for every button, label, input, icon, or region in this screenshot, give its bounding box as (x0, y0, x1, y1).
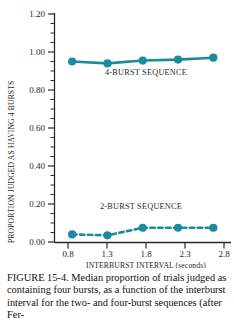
data-point-marker (174, 224, 182, 232)
y-axis-tick-labels: 1.20 1.00 0.80 0.60 0.40 0.20 0.00 (29, 9, 45, 247)
series-1 (68, 54, 217, 68)
data-point-marker (209, 54, 217, 62)
data-point-marker (139, 56, 147, 64)
y-tick-label: 0.60 (29, 123, 45, 133)
figure-plot-area: PROPORTION JUDGED AS HAVING 4 BURSTS (0, 0, 234, 268)
data-point-marker (68, 57, 76, 65)
x-tick-label: 0.8 (62, 249, 74, 259)
x-tick-label: 1.3 (101, 249, 113, 259)
x-tick-label: 2.8 (218, 249, 230, 259)
series-annotation-4-burst: 4-BURST SEQUENCE (105, 68, 187, 77)
y-tick-label: 0.00 (29, 237, 45, 247)
data-point-marker (139, 224, 147, 232)
data-point-marker (209, 224, 217, 232)
y-tick-label: 0.40 (29, 161, 45, 171)
y-tick-label: 1.20 (29, 9, 45, 19)
y-axis-major-ticks (48, 14, 55, 242)
series-layer (68, 54, 217, 240)
x-axis-tick-labels: 0.8 1.3 1.8 2.3 2.8 (62, 249, 230, 259)
caption-line: FIGURE 15-4. Median proportion of trials (7, 272, 184, 283)
y-tick-label: 0.20 (29, 199, 45, 209)
data-point-marker (68, 230, 76, 238)
figure-caption: FIGURE 15-4. Median proportion of trials… (7, 272, 229, 322)
y-axis-title: PROPORTION JUDGED AS HAVING 4 BURSTS (7, 81, 16, 243)
x-axis-ticks (68, 243, 224, 249)
x-tick-label: 1.8 (140, 249, 152, 259)
data-point-marker (103, 231, 111, 239)
series-2 (68, 224, 217, 240)
data-point-marker (174, 56, 182, 64)
line-chart: PROPORTION JUDGED AS HAVING 4 BURSTS (0, 0, 234, 268)
y-tick-label: 1.00 (29, 47, 45, 57)
series-annotation-2-burst: 2-BURST SEQUENCE (100, 202, 182, 211)
data-point-marker (103, 59, 111, 67)
x-axis-title: INTERBURST INTERVAL (seconds) (86, 261, 206, 268)
y-tick-label: 0.80 (29, 85, 45, 95)
x-tick-label: 2.3 (179, 249, 191, 259)
